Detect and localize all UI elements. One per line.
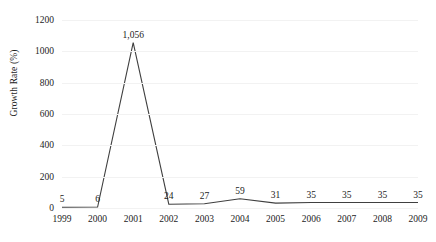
data-value-label: 35	[413, 190, 423, 200]
x-axis-tick-label: 2007	[337, 214, 356, 224]
y-axis-tick-label: 0	[49, 203, 54, 213]
x-axis-tick-label: 2004	[231, 214, 250, 224]
x-axis-tick-label: 2006	[302, 214, 321, 224]
x-axis-tick-labels: 1999200020012002200320042005200620072008…	[62, 214, 418, 230]
data-value-labels: 561,0562427593135353535	[62, 20, 418, 208]
data-value-label: 35	[378, 190, 388, 200]
y-axis-tick-label: 600	[40, 109, 54, 119]
y-axis-tick-label: 400	[40, 140, 54, 150]
data-value-label: 59	[235, 186, 245, 196]
y-axis-tick-label: 1000	[35, 46, 54, 56]
x-axis-tick-label: 2001	[124, 214, 143, 224]
x-axis-tick-label: 2005	[266, 214, 285, 224]
data-value-label: 31	[271, 190, 281, 200]
data-value-label: 6	[95, 194, 100, 204]
gridline	[62, 208, 418, 209]
data-value-label: 35	[306, 190, 316, 200]
x-axis-tick-label: 1999	[53, 214, 72, 224]
y-axis-tick-labels: 020040060080010001200	[0, 20, 58, 208]
x-axis-tick-label: 2000	[88, 214, 107, 224]
y-axis-tick-label: 800	[40, 78, 54, 88]
data-value-label: 24	[164, 191, 174, 201]
data-value-label: 5	[60, 194, 65, 204]
x-axis-tick-label: 2008	[373, 214, 392, 224]
data-value-label: 27	[200, 191, 210, 201]
data-value-label: 35	[342, 190, 352, 200]
growth-rate-line-chart: Growth Rate (%) 020040060080010001200 56…	[0, 0, 436, 242]
y-axis-tick-label: 1200	[35, 15, 54, 25]
x-axis-tick-label: 2009	[409, 214, 428, 224]
x-axis-tick-label: 2003	[195, 214, 214, 224]
x-axis-tick-label: 2002	[159, 214, 178, 224]
data-value-label: 1,056	[123, 30, 144, 40]
y-axis-tick-label: 200	[40, 172, 54, 182]
